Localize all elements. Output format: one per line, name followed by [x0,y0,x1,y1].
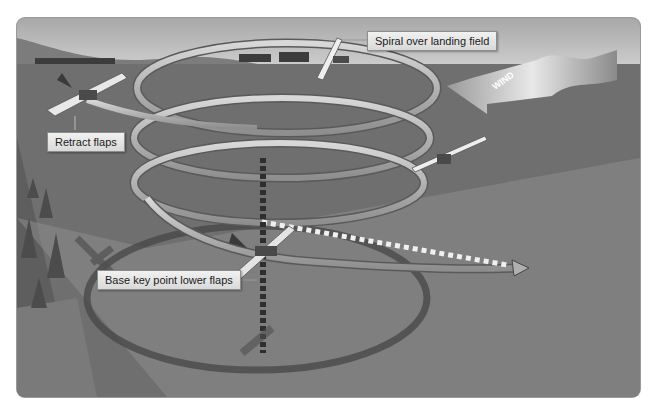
tree-line [279,52,309,62]
diagram-frame: WIND [17,18,640,397]
label-retract-flaps: Retract flaps [47,132,125,152]
spiral-landing-illustration: WIND [17,18,640,397]
label-base-key-point: Base key point lower flaps [97,270,241,290]
label-spiral-over-landing-field: Spiral over landing field [367,31,497,51]
tree-line [239,54,271,62]
